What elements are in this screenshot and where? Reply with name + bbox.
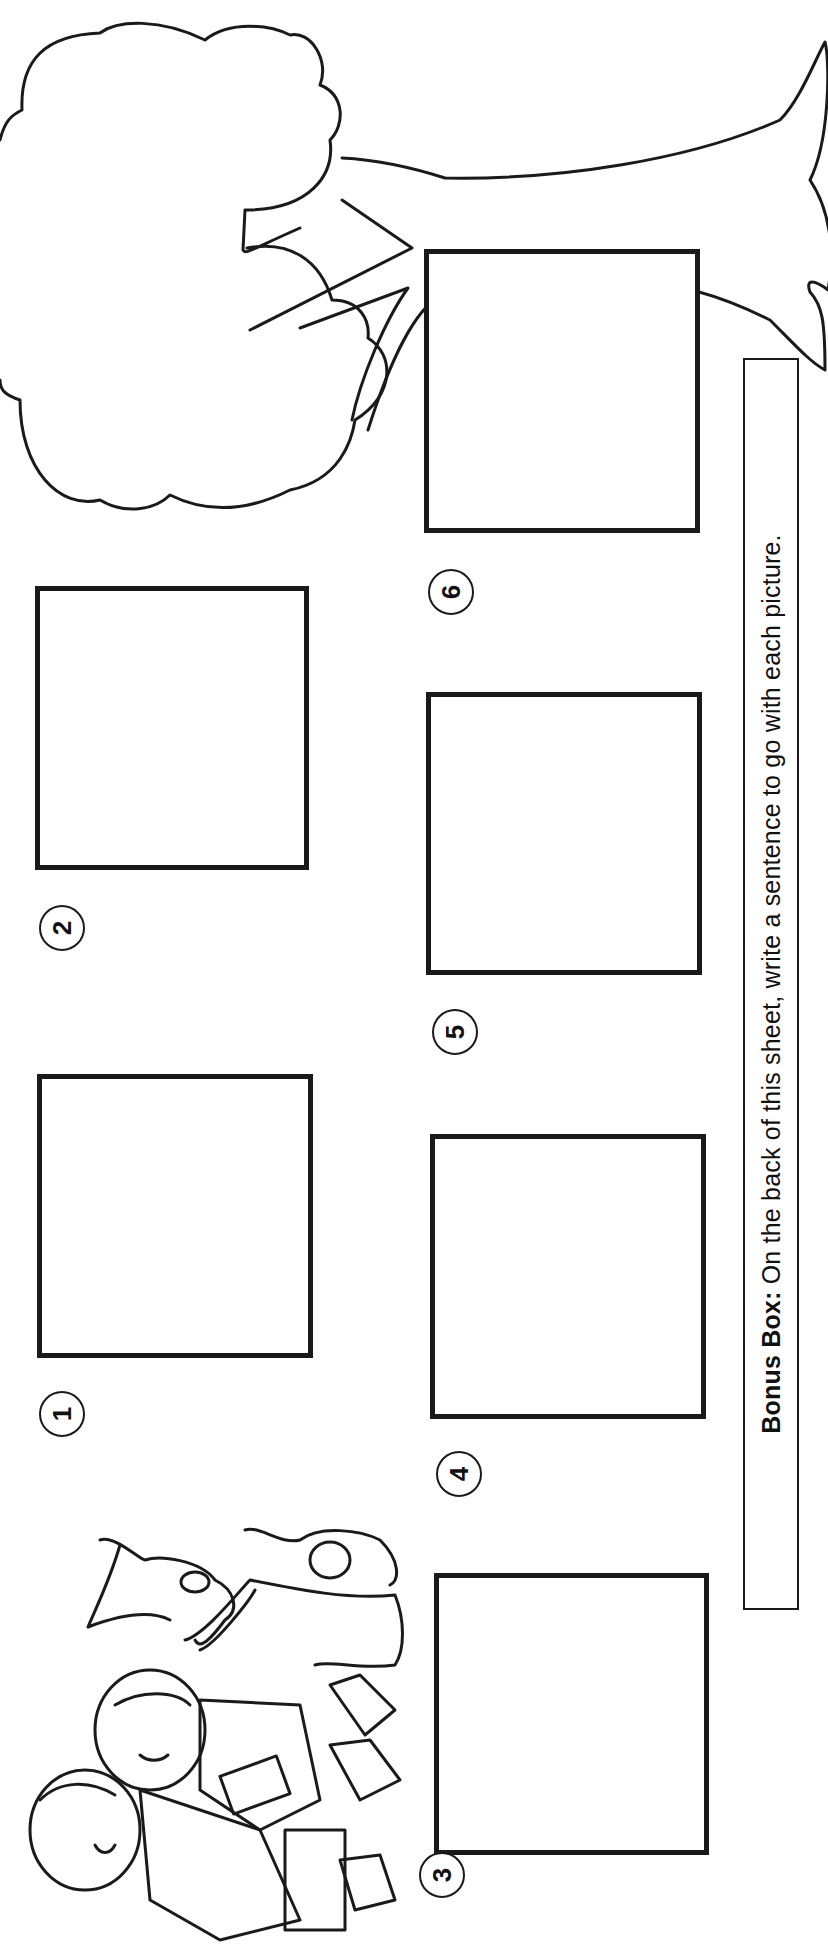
picture-frame-1 xyxy=(37,1074,313,1358)
frame-number-4-text: 4 xyxy=(444,1467,475,1481)
frame-number-5-text: 5 xyxy=(440,1025,471,1039)
frame-number-4: 4 xyxy=(436,1451,482,1497)
frame-number-3-text: 3 xyxy=(427,1868,458,1882)
bonus-box-text: Bonus Box: On the back of this sheet, wr… xyxy=(757,534,786,1434)
frame-number-6: 6 xyxy=(428,569,474,615)
bonus-box-instruction: On the back of this sheet, write a sente… xyxy=(757,534,785,1291)
bonus-box-label: Bonus Box: xyxy=(757,1292,785,1434)
picture-frame-6 xyxy=(424,249,700,533)
bonus-box: Bonus Box: On the back of this sheet, wr… xyxy=(743,358,799,1610)
picture-frame-4 xyxy=(430,1134,706,1419)
children-and-pets-illustration xyxy=(0,1500,420,1954)
picture-frame-3 xyxy=(434,1573,709,1855)
frame-number-1: 1 xyxy=(39,1391,85,1437)
picture-frame-5 xyxy=(426,692,702,975)
frame-number-5: 5 xyxy=(432,1009,478,1055)
frame-number-6-text: 6 xyxy=(436,585,467,599)
frame-number-1-text: 1 xyxy=(47,1407,78,1421)
picture-frame-2 xyxy=(35,586,309,870)
tree-illustration xyxy=(0,0,828,520)
frame-number-2-text: 2 xyxy=(47,921,78,935)
frame-number-3: 3 xyxy=(419,1852,465,1898)
frame-number-2: 2 xyxy=(39,905,85,951)
